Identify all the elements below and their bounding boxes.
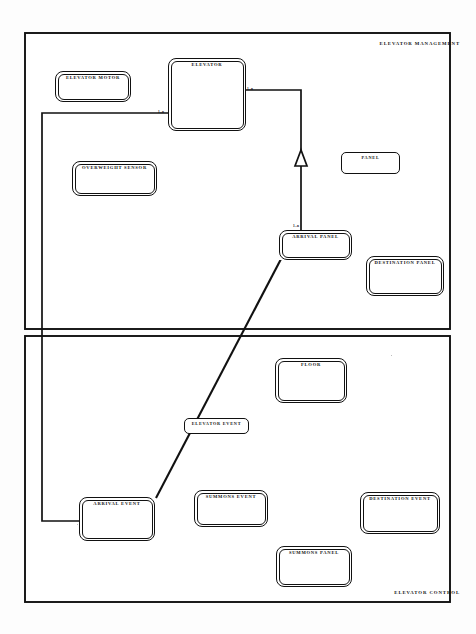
class-box-arrival-panel[interactable]: ARRIVAL PANEL <box>279 230 352 260</box>
diagram-canvas: ELEVATOR MANAGEMENT ELEVATOR CONTROL ELE… <box>0 0 476 634</box>
class-name-floor: FLOOR <box>275 361 347 368</box>
class-box-destination-event[interactable]: DESTINATION EVENT <box>360 492 440 534</box>
class-box-elevator-motor[interactable]: ELEVATOR MOTOR <box>55 71 131 102</box>
multiplicity-elevator-arrival-panel: 1..n <box>247 87 253 91</box>
class-name-elevator-event: ELEVATOR EVENT <box>184 420 249 427</box>
frame-title-elevator-control: ELEVATOR CONTROL <box>394 590 460 595</box>
scan-speck <box>391 355 392 356</box>
class-name-summons-panel: SUMMONS PANEL <box>276 549 352 556</box>
class-box-summons-panel[interactable]: SUMMONS PANEL <box>276 546 352 587</box>
class-name-overweight-sensor: OVERWEIGHT SENSOR <box>72 164 157 171</box>
class-name-elevator: ELEVATOR <box>168 61 246 68</box>
multiplicity-elevator-arrival-event: 1..n <box>158 110 164 114</box>
class-name-panel: PANEL <box>341 154 400 161</box>
class-name-arrival-event: ARRIVAL EVENT <box>79 500 155 507</box>
class-box-summons-event[interactable]: SUMMONS EVENT <box>194 490 268 527</box>
class-box-elevator-event[interactable]: ELEVATOR EVENT <box>184 418 249 434</box>
class-name-elevator-motor: ELEVATOR MOTOR <box>55 74 131 81</box>
class-name-arrival-panel: ARRIVAL PANEL <box>279 233 352 240</box>
scan-speck <box>77 524 78 525</box>
class-box-inner-border <box>171 61 244 129</box>
frame-title-elevator-management: ELEVATOR MANAGEMENT <box>380 41 460 46</box>
class-name-destination-panel: DESTINATION PANEL <box>366 259 444 266</box>
class-box-floor[interactable]: FLOOR <box>275 358 347 403</box>
frame-elevator-control <box>25 336 450 602</box>
class-box-arrival-event[interactable]: ARRIVAL EVENT <box>79 497 155 541</box>
class-box-overweight-sensor[interactable]: OVERWEIGHT SENSOR <box>72 161 157 196</box>
multiplicity-arrival-panel: 1..n <box>293 224 299 228</box>
class-name-destination-event: DESTINATION EVENT <box>360 495 440 502</box>
class-name-summons-event: SUMMONS EVENT <box>194 493 268 500</box>
class-box-elevator[interactable]: ELEVATOR <box>168 58 246 131</box>
class-box-panel[interactable]: PANEL <box>341 152 400 174</box>
frame-elevator-control-border <box>25 336 450 602</box>
class-box-destination-panel[interactable]: DESTINATION PANEL <box>366 256 444 296</box>
